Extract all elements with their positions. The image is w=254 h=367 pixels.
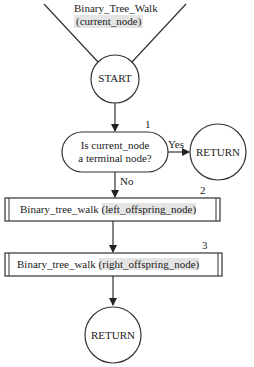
return-yes-label: RETURN [190,146,246,159]
decision-number: 1 [145,118,151,131]
call-right-text: Binary_tree_walk (right_offspring_node) [17,258,199,271]
decision-line-2: a terminal node? [62,152,168,165]
call-left-arg: (left_offspring_node) [102,203,197,215]
call-right-number: 3 [202,239,208,252]
call-left-number: 2 [200,184,206,197]
decision-line-1: Is current_node [62,139,168,152]
entry-function-name: Binary_Tree_Walk [74,2,158,15]
return-end-label: RETURN [85,329,141,342]
yes-label: Yes [168,138,184,151]
call-right-arg: (right_offspring_node) [99,258,200,270]
entry-function-param: (current_node) [74,15,143,28]
no-label: No [120,175,133,188]
call-left-func: Binary_tree_walk [20,203,99,215]
call-left-text: Binary_tree_walk (left_offspring_node) [20,203,196,216]
call-right-func: Binary_tree_walk [17,258,96,270]
start-label: START [91,72,139,85]
